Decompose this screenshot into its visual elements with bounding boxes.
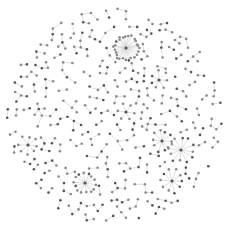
graph-node (130, 78, 133, 81)
graph-node (154, 212, 157, 215)
graph-node (153, 144, 156, 147)
graph-node (79, 40, 82, 43)
graph-node (92, 188, 95, 191)
graph-node (57, 45, 60, 48)
graph-node (176, 200, 179, 203)
graph-node (185, 166, 188, 169)
graph-node (124, 110, 127, 113)
graph-node (73, 45, 76, 48)
graph-node (116, 57, 119, 60)
graph-node (59, 118, 62, 121)
graph-node (47, 191, 50, 194)
graph-node (91, 144, 94, 147)
graph-node (157, 198, 160, 201)
graph-node (160, 46, 163, 49)
graph-node (66, 76, 69, 79)
graph-node (96, 167, 99, 170)
graph-node (137, 72, 140, 75)
graph-node (91, 29, 94, 32)
graph-node (130, 34, 133, 37)
graph-node (123, 95, 126, 98)
graph-node (178, 42, 181, 45)
graph-node (187, 60, 190, 63)
graph-node (176, 115, 179, 118)
graph-node (108, 16, 111, 19)
graph-node (181, 180, 184, 183)
graph-node (173, 192, 176, 195)
graph-node (133, 134, 136, 137)
graph-node (88, 96, 91, 99)
graph-node (146, 200, 149, 203)
graph-node (95, 123, 98, 126)
graph-node (119, 72, 122, 75)
graph-node (215, 128, 218, 131)
graph-node (186, 161, 189, 164)
graph-node (115, 40, 118, 43)
graph-node (86, 205, 89, 208)
graph-node (35, 50, 38, 53)
graph-node (137, 44, 140, 47)
graph-node (74, 171, 77, 174)
graph-node (26, 75, 29, 78)
graph-node (43, 52, 46, 55)
graph-node (95, 184, 98, 187)
graph-node (99, 193, 102, 196)
graph-node (161, 94, 164, 97)
graph-node (172, 160, 175, 163)
graph-node (118, 162, 121, 165)
graph-node (76, 189, 79, 192)
graph-node (130, 62, 133, 65)
graph-node (170, 97, 173, 100)
graph-node (138, 90, 141, 93)
graph-node (115, 95, 118, 98)
graph-node (58, 89, 61, 92)
graph-node (198, 144, 201, 147)
graph-node (69, 193, 72, 196)
graph-node (146, 171, 149, 174)
graph-node (15, 108, 18, 111)
graph-node (86, 55, 89, 58)
graph-node (203, 74, 206, 77)
graph-node (74, 185, 77, 188)
graph-node (45, 61, 48, 64)
graph-node (40, 136, 43, 139)
graph-node (90, 138, 93, 141)
graph-node (157, 69, 160, 72)
graph-node (86, 155, 89, 158)
graph-node (75, 52, 78, 55)
graph-node (138, 47, 141, 50)
graph-node (184, 68, 187, 71)
graph-node (166, 22, 169, 25)
graph-node (83, 181, 86, 184)
graph-node (89, 111, 92, 114)
graph-node (170, 202, 173, 205)
graph-node (87, 131, 90, 134)
graph-node (162, 186, 165, 189)
graph-node (137, 198, 140, 201)
graph-node (33, 150, 36, 153)
graph-node (158, 29, 161, 32)
graph-node (164, 131, 167, 134)
graph-node (17, 144, 20, 147)
graph-node (132, 69, 135, 72)
graph-node (103, 84, 106, 87)
graph-node (157, 78, 160, 81)
graph-node (128, 118, 131, 121)
graph-node (47, 67, 50, 70)
graph-node (150, 32, 153, 35)
graph-node (179, 148, 182, 151)
graph-node (101, 59, 104, 62)
graph-node (80, 142, 83, 145)
graph-node (28, 136, 31, 139)
graph-node (40, 187, 43, 190)
graph-node (179, 35, 182, 38)
graph-node (159, 129, 162, 132)
graph-node (125, 216, 128, 219)
graph-node (136, 26, 139, 29)
graph-node (174, 39, 177, 42)
graph-node (202, 127, 205, 130)
graph-node (99, 72, 102, 75)
graph-node (23, 160, 26, 163)
graph-node (41, 114, 44, 117)
graph-node (127, 35, 130, 38)
